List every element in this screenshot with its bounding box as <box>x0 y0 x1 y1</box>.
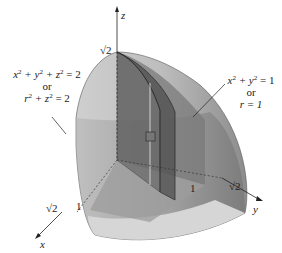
y-tick-sqrt2: √2 <box>229 180 241 192</box>
z-axis <box>115 6 119 52</box>
x-tick-one: 1 <box>76 200 82 212</box>
y-axis-label: y <box>253 203 258 215</box>
cylinder-equation-label: x2 + y2 = 1 or r = 1 <box>222 74 280 110</box>
z-tick-sqrt2: √2 <box>100 44 112 56</box>
y-tick-one: 1 <box>190 182 196 194</box>
x-axis <box>35 212 62 239</box>
cylinder-equation-or: or <box>222 86 280 98</box>
x-axis-label: x <box>40 238 45 250</box>
cylinder-equation-cartesian: x2 + y2 = 1 <box>222 74 280 86</box>
spherical-region-diagram: z x y √2 √2 1 √2 1 x2 + y2 + z2 = 2 or r… <box>0 0 282 253</box>
cylinder-equation-cylindrical: r = 1 <box>222 98 280 110</box>
sphere-equation-cylindrical: r2 + z2 = 2 <box>8 92 86 104</box>
sphere-equation-cartesian: x2 + y2 + z2 = 2 <box>8 68 86 80</box>
x-tick-sqrt2: √2 <box>46 202 58 214</box>
z-axis-label: z <box>121 9 125 21</box>
diagram-graphic <box>0 0 282 253</box>
sphere-equation-or: or <box>8 80 86 92</box>
sphere-equation-label: x2 + y2 + z2 = 2 or r2 + z2 = 2 <box>8 68 86 104</box>
sphere-leader <box>52 117 66 134</box>
